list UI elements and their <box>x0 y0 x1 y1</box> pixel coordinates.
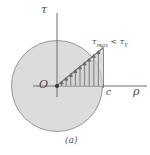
origin-point-marker <box>55 84 59 88</box>
tau-max-subscript: max <box>96 42 108 48</box>
tau-axis-label: τ <box>41 4 47 15</box>
figure-caption: (a) <box>65 136 77 145</box>
radius-c-label: c <box>106 88 111 97</box>
tau-max-annotation: τmax < τY <box>92 38 128 48</box>
figure-graphic <box>0 0 150 155</box>
origin-label: O <box>39 79 48 90</box>
torsion-stress-figure: τ ρ O c τmax < τY (a) <box>0 0 150 155</box>
rho-axis-label: ρ <box>133 86 139 97</box>
tau-yield-subscript: Y <box>124 42 128 48</box>
tau-max-relation: < τ <box>108 37 124 46</box>
